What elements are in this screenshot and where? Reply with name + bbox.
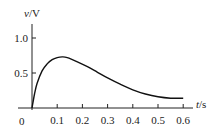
- y-ticks: 0.51.0: [14, 32, 36, 79]
- chart: 0.10.20.30.40.50.6 0.51.0 0 v/V t/s: [0, 0, 217, 131]
- y-tick-label: 0.5: [14, 67, 28, 79]
- data-curve: [32, 57, 183, 108]
- x-axis-label: t/s: [196, 98, 206, 110]
- y-axis-label: v/V: [24, 7, 40, 19]
- x-tick-label: 0.5: [151, 114, 165, 126]
- origin-label: 0: [19, 115, 25, 127]
- x-tick-label: 0.1: [50, 114, 64, 126]
- y-tick-label: 1.0: [14, 32, 28, 44]
- x-tick-label: 0.2: [76, 114, 90, 126]
- x-tick-label: 0.4: [126, 114, 140, 126]
- x-tick-label: 0.6: [176, 114, 190, 126]
- x-ticks: 0.10.20.30.40.50.6: [50, 104, 190, 126]
- x-tick-label: 0.3: [101, 114, 115, 126]
